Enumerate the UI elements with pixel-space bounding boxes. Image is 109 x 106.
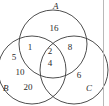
region-center-lower: 4 [48,59,53,68]
region-b-only-upper: 5 [12,53,17,62]
region-b-only-lower: 20 [24,83,33,92]
region-c-only: 6 [77,71,82,80]
region-a-and-b: 1 [28,43,33,52]
set-label-c: C [86,84,92,93]
set-label-b: B [3,84,9,93]
region-b-only-middle: 10 [16,68,25,77]
set-label-a: A [53,2,59,11]
right-margin-rule [103,0,104,106]
region-a-b-c: 2 [48,47,53,56]
region-a-and-c: 8 [68,43,73,52]
venn-diagram-figure: A B C 16 1 8 2 4 5 10 20 6 [0,0,109,106]
circle-b [0,36,66,104]
region-a-only: 16 [50,24,59,33]
